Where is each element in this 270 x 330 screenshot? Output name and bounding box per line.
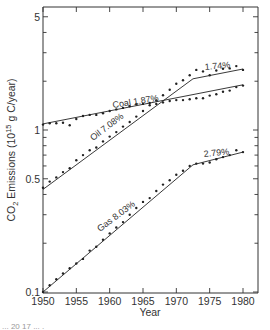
data-point [69,167,71,169]
gas-series [42,149,244,293]
data-point [49,284,51,286]
data-point [55,122,57,124]
co2-emissions-chart: 1950195519601965197019751980 0.10.515 Co… [0,0,270,330]
data-point [82,154,84,156]
data-point [162,183,164,185]
data-point [95,114,97,116]
data-point [129,121,131,123]
data-point [209,161,211,163]
oil-late-rate-label: 1.74% [204,60,230,72]
data-point [242,69,244,71]
data-point [62,171,64,173]
data-point [62,272,64,274]
series-labels: Coal 1.87% Oil 7.08% 1.74% Gas 8.03% 2.7… [88,60,230,234]
data-point [149,197,151,199]
data-point [242,84,244,86]
data-point [155,190,157,192]
data-point [115,226,117,228]
y-tick-label: 0.1 [25,286,40,298]
data-point [89,249,91,251]
data-point [69,267,71,269]
data-point [195,69,197,71]
data-point [69,124,71,126]
gas-late-rate-label: 2.79% [203,146,229,159]
data-point [102,112,104,114]
data-point [95,146,97,148]
y-axis-title: CO2 Emissions (1015 g C/year) [4,78,20,221]
gas-fit-line [43,152,243,292]
x-tick-label: 1975 [198,295,222,307]
x-tick-label: 1960 [98,295,122,307]
data-point [129,214,131,216]
data-point [142,201,144,203]
data-point [62,122,64,124]
data-point [75,159,77,161]
data-point [149,104,151,106]
data-point [55,278,57,280]
data-point [115,131,117,133]
data-point [102,239,104,241]
data-point [229,89,231,91]
data-point [109,110,111,112]
data-point [42,123,44,125]
data-point [42,187,44,189]
data-point [222,91,224,93]
data-point [202,97,204,99]
data-point [42,291,44,293]
data-point [209,94,211,96]
data-point [109,135,111,137]
data-point [215,93,217,95]
data-point [122,221,124,223]
data-point [209,74,211,76]
data-point [95,246,97,248]
coal-series [42,84,244,126]
data-point [135,115,137,117]
data-point [49,180,51,182]
oil-series [42,65,244,189]
y-tick-label: 1 [34,124,40,136]
data-point [202,70,204,72]
data-point [189,165,191,167]
data-point [169,179,171,181]
x-axis-title: Year [139,306,161,318]
data-point [182,170,184,172]
data-point [195,162,197,164]
data-point [75,262,77,264]
data-point [182,99,184,101]
data-point [142,110,144,112]
data-point [189,98,191,100]
data-point [235,65,237,67]
data-point [169,100,171,102]
data-point [175,174,177,176]
y-tick-label: 0.5 [25,173,40,185]
oil-label: Oil 7.08% [88,111,125,142]
data-point [82,258,84,260]
data-point [235,86,237,88]
data-point [109,232,111,234]
data-point [215,158,217,160]
data-point [55,176,57,178]
data-point [82,115,84,117]
coal-label: Coal 1.87% [112,93,160,110]
x-tick-label: 1970 [165,295,189,307]
x-tick-label: 1980 [231,295,255,307]
data-point [89,114,91,116]
data-point [75,118,77,120]
oil-fit-line [43,69,243,189]
figure-caption-partial: ... 20 17 ... . [2,322,44,330]
data-point [89,149,91,151]
y-tick-label: 5 [34,11,40,23]
data-point [102,140,104,142]
data-point [182,79,184,81]
data-point [49,122,51,124]
data-point [122,125,124,127]
data-point [202,162,204,164]
data-point [242,151,244,153]
data-point [169,89,171,91]
x-tick-label: 1955 [65,295,89,307]
data-point [175,83,177,85]
data-point [235,149,237,151]
data-point [189,74,191,76]
data-point [175,99,177,101]
data-point [195,97,197,99]
